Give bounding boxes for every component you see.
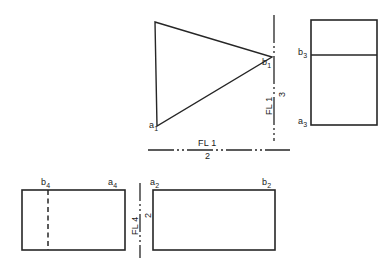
view-rectangle-4 — [22, 190, 125, 250]
label-b3: b3 — [298, 48, 307, 59]
fold-label-4-2-denominator: 2 — [144, 213, 153, 218]
label-a1: a1 — [149, 121, 158, 132]
triangle-outline — [155, 22, 272, 126]
fold-label-4-2-numerator: FL 4 — [131, 217, 140, 235]
view-rectangle-2 — [153, 190, 275, 250]
fold-label-1-2-denominator: 2 — [205, 152, 210, 161]
label-b4: b4 — [41, 178, 50, 189]
rect-3-outline — [311, 20, 377, 125]
label-a3: a3 — [298, 117, 307, 128]
view-triangle-1 — [155, 22, 272, 126]
rect-2-outline — [153, 190, 275, 250]
label-a4: a4 — [108, 178, 117, 189]
view-rectangle-3 — [311, 20, 377, 125]
technical-drawing-svg — [0, 0, 387, 271]
label-b2: b2 — [262, 178, 271, 189]
label-a2: a2 — [150, 178, 159, 189]
fold-label-1-3-denominator: 3 — [278, 92, 287, 97]
fold-label-1-2-numerator: FL 1 — [198, 139, 216, 148]
label-b1: b1 — [262, 58, 271, 69]
drawing-canvas: a1 b1 b3 a3 b4 a4 a2 b2 FL 1 2 FL 1 3 FL… — [0, 0, 387, 271]
fold-label-1-3-numerator: FL 1 — [265, 97, 274, 115]
rect-4-outline — [22, 190, 125, 250]
